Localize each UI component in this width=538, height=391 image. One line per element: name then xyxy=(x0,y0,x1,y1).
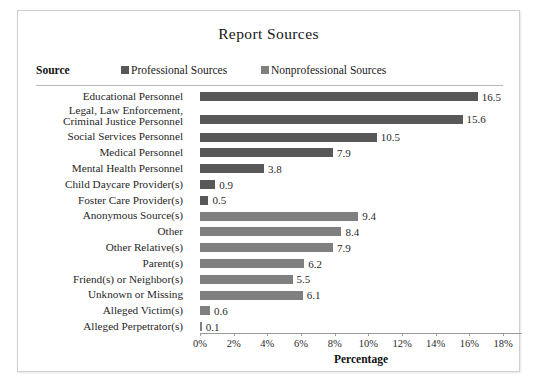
bar-fill[interactable] xyxy=(200,196,208,205)
bar-track: 6.2 xyxy=(200,255,503,272)
x-axis-tick-mark xyxy=(200,333,201,336)
bar-category-label: Alleged Perpetrator(s) xyxy=(36,321,183,333)
legend-source-header: Source xyxy=(36,64,70,76)
x-axis-tick-mark xyxy=(436,333,437,336)
x-axis-line xyxy=(200,333,522,334)
bar-row: Friend(s) or Neighbor(s)5.5 xyxy=(36,271,503,288)
bar-category-label: Foster Care Provider(s) xyxy=(36,195,183,207)
bar-fill[interactable] xyxy=(200,275,293,284)
bar-row: Social Services Personnel10.5 xyxy=(36,129,503,146)
bar-track: 15.6 xyxy=(200,111,503,128)
bar-fill[interactable] xyxy=(200,115,463,124)
bar-category-label: Mental Health Personnel xyxy=(36,163,183,175)
bar-category-label: Social Services Personnel xyxy=(36,131,183,143)
bar-row: Unknown or Missing6.1 xyxy=(36,287,503,304)
x-axis-tick-label: 0% xyxy=(193,338,207,349)
bar-fill[interactable] xyxy=(200,306,210,315)
bar-fill[interactable] xyxy=(200,133,377,142)
x-axis-tick-label: 12% xyxy=(392,338,411,349)
bar-fill[interactable] xyxy=(200,92,478,101)
bar-row: Medical Personnel7.9 xyxy=(36,144,503,161)
bar-fill[interactable] xyxy=(200,180,215,189)
bar-row: Parent(s)6.2 xyxy=(36,255,503,272)
bar-row: Educational Personnel16.5 xyxy=(36,88,503,105)
bar-track: 7.9 xyxy=(200,144,503,161)
bar-category-label: Legal, Law Enforcement, Criminal Justice… xyxy=(36,105,183,128)
bar-row: Foster Care Provider(s)0.5 xyxy=(36,192,503,209)
bar-value-label: 15.6 xyxy=(467,113,486,125)
bar-row: Other8.4 xyxy=(36,223,503,240)
x-axis-tick-label: 4% xyxy=(260,338,274,349)
x-axis-title: Percentage xyxy=(200,353,522,365)
bar-track: 7.9 xyxy=(200,239,503,256)
legend-swatch-nonprofessional-icon xyxy=(261,66,269,74)
bar-track: 10.5 xyxy=(200,129,503,146)
legend-item-professional[interactable]: Professional Sources xyxy=(121,64,227,76)
plot-area: Educational Personnel16.5Legal, Law Enfo… xyxy=(36,88,503,333)
bar-category-label: Other Relative(s) xyxy=(36,242,183,254)
bar-category-label: Parent(s) xyxy=(36,258,183,270)
chart-title: Report Sources xyxy=(18,25,519,43)
bar-value-label: 10.5 xyxy=(381,131,400,143)
bar-value-label: 7.9 xyxy=(337,147,351,159)
x-axis-tick-label: 6% xyxy=(294,338,308,349)
bar-category-label: Child Daycare Provider(s) xyxy=(36,179,183,191)
x-axis-tick-mark xyxy=(301,333,302,336)
bar-category-label: Alleged Victim(s) xyxy=(36,305,183,317)
x-axis-tick-label: 16% xyxy=(460,338,479,349)
bar-track: 8.4 xyxy=(200,223,503,240)
bar-category-label: Other xyxy=(36,226,183,238)
bar-value-label: 0.6 xyxy=(214,305,228,317)
x-axis-tick-mark xyxy=(503,333,504,336)
chart-frame: Report Sources Source Professional Sourc… xyxy=(17,10,520,372)
bar-fill[interactable] xyxy=(200,259,304,268)
bar-track: 3.8 xyxy=(200,160,503,177)
bar-row: Other Relative(s)7.9 xyxy=(36,239,503,256)
bar-row: Legal, Law Enforcement, Criminal Justice… xyxy=(36,111,503,128)
legend-divider xyxy=(36,85,503,86)
legend-label-nonprofessional: Nonprofessional Sources xyxy=(271,64,386,76)
bar-value-label: 3.8 xyxy=(268,163,282,175)
x-axis-tick-mark xyxy=(368,333,369,336)
bar-fill[interactable] xyxy=(200,291,303,300)
bar-row: Alleged Victim(s)0.6 xyxy=(36,302,503,319)
bar-track: 0.5 xyxy=(200,192,503,209)
x-axis-tick-mark xyxy=(469,333,470,336)
bar-value-label: 9.4 xyxy=(362,210,376,222)
bar-track: 16.5 xyxy=(200,88,503,105)
bar-track: 0.6 xyxy=(200,302,503,319)
bar-row: Anonymous Source(s)9.4 xyxy=(36,208,503,225)
bar-track: 9.4 xyxy=(200,208,503,225)
x-axis-tick-label: 18% xyxy=(493,338,512,349)
bar-fill[interactable] xyxy=(200,322,202,331)
bar-category-label: Anonymous Source(s) xyxy=(36,210,183,222)
bar-value-label: 8.4 xyxy=(345,226,359,238)
bar-track: 0.9 xyxy=(200,176,503,193)
x-axis-tick-label: 2% xyxy=(227,338,241,349)
bar-fill[interactable] xyxy=(200,243,333,252)
x-axis-tick-mark xyxy=(234,333,235,336)
bar-value-label: 0.9 xyxy=(219,179,233,191)
x-axis-tick-label: 10% xyxy=(359,338,378,349)
bar-fill[interactable] xyxy=(200,227,341,236)
bar-row: Child Daycare Provider(s)0.9 xyxy=(36,176,503,193)
bar-category-label: Unknown or Missing xyxy=(36,289,183,301)
bar-track: 6.1 xyxy=(200,287,503,304)
x-axis-tick-mark xyxy=(402,333,403,336)
legend-label-professional: Professional Sources xyxy=(131,64,227,76)
bar-category-label: Educational Personnel xyxy=(36,91,183,103)
bar-value-label: 7.9 xyxy=(337,242,351,254)
legend: Source Professional Sources Nonprofessio… xyxy=(36,64,503,81)
x-axis-tick-label: 8% xyxy=(328,338,342,349)
bar-value-label: 5.5 xyxy=(297,273,311,285)
bar-fill[interactable] xyxy=(200,212,358,221)
bar-category-label: Medical Personnel xyxy=(36,147,183,159)
x-axis-tick-mark xyxy=(267,333,268,336)
bar-fill[interactable] xyxy=(200,164,264,173)
legend-swatch-professional-icon xyxy=(121,66,129,74)
bar-value-label: 6.2 xyxy=(308,258,322,270)
bar-value-label: 6.1 xyxy=(307,289,321,301)
bar-track: 5.5 xyxy=(200,271,503,288)
bar-fill[interactable] xyxy=(200,148,333,157)
legend-item-nonprofessional[interactable]: Nonprofessional Sources xyxy=(261,64,386,76)
